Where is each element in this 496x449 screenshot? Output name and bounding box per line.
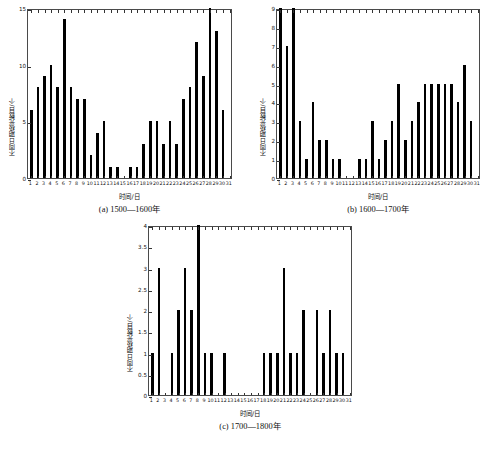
x-axis-tick-top (287, 10, 288, 13)
panel-a-axes (27, 9, 232, 179)
x-axis-tick (38, 176, 39, 179)
bar (269, 353, 272, 396)
y-axis-tick (149, 333, 152, 334)
x-axis-tick-top (212, 227, 213, 230)
y-axis-tick-label: 9 (261, 6, 275, 12)
panel-a: 不同日期极光数目/个 051015 1234567891011121314151… (0, 0, 248, 218)
x-axis-tick (471, 176, 472, 179)
x-axis-tick-top (307, 10, 308, 13)
y-axis-tick (28, 123, 31, 124)
y-axis-tick-label: 7 (261, 44, 275, 50)
bar (391, 121, 394, 178)
x-axis-tick-top (164, 10, 165, 13)
x-axis-tick-top (238, 227, 239, 230)
y-axis-tick (277, 104, 280, 105)
x-axis-tick-top (203, 10, 204, 13)
x-axis-tick (264, 393, 265, 396)
x-axis-tick (58, 176, 59, 179)
bar (371, 121, 374, 178)
x-axis-tick (317, 393, 318, 396)
x-axis-tick-top (280, 10, 281, 13)
x-axis-tick-top (337, 227, 338, 230)
x-axis-tick-top (317, 227, 318, 230)
y-axis-tick-label: 6 (261, 63, 275, 69)
panel-c-caption: (c) 1700—1800年 (148, 419, 352, 431)
y-axis-tick-label: 5 (14, 119, 26, 125)
x-axis-tick (244, 393, 245, 396)
x-axis-tick-top (277, 227, 278, 230)
x-axis-tick (231, 393, 232, 396)
bar (63, 19, 66, 178)
bar (322, 353, 325, 396)
x-axis-tick (198, 393, 199, 396)
x-axis-tick (277, 393, 278, 396)
x-axis-tick-top (320, 10, 321, 13)
y-axis-tick (277, 142, 280, 143)
x-axis-tick-top (185, 227, 186, 230)
x-axis-tick (386, 176, 387, 179)
bar (384, 140, 387, 178)
y-axis-tick-label: 1 (131, 351, 147, 357)
x-axis-tick-top (165, 227, 166, 230)
x-axis-tick (320, 176, 321, 179)
x-axis-tick (251, 393, 252, 396)
x-axis-tick-label: 31 (224, 181, 234, 186)
x-axis-tick-top (313, 10, 314, 13)
x-axis-tick-top (458, 10, 459, 13)
bar (195, 42, 198, 178)
x-axis-tick (323, 393, 324, 396)
x-axis-tick (185, 393, 186, 396)
x-axis-tick-top (97, 10, 98, 13)
x-axis-tick (91, 176, 92, 179)
y-axis-tick (277, 48, 280, 49)
panel-b-axes (276, 9, 480, 179)
bar (404, 140, 407, 178)
x-axis-tick (218, 393, 219, 396)
x-axis-tick (343, 393, 344, 396)
bar (190, 310, 193, 395)
x-axis-tick-top (438, 10, 439, 13)
x-axis-tick (379, 176, 380, 179)
x-axis-tick (425, 176, 426, 179)
x-axis-tick (179, 393, 180, 396)
bar (70, 87, 73, 178)
y-axis-tick (149, 355, 152, 356)
y-axis-tick-label: 0 (14, 176, 26, 182)
bar (444, 84, 447, 178)
bar (411, 121, 414, 178)
bar (171, 353, 174, 396)
x-axis-tick-top (465, 10, 466, 13)
x-axis-tick-top (346, 10, 347, 13)
x-axis-tick-top (244, 227, 245, 230)
y-axis-tick-label: 4 (131, 223, 147, 229)
bar (470, 121, 473, 178)
bar (463, 65, 466, 178)
x-axis-tick (177, 176, 178, 179)
x-axis-tick (445, 176, 446, 179)
x-axis-tick-top (152, 227, 153, 230)
bar (430, 84, 433, 178)
x-axis-tick-top (38, 10, 39, 13)
x-axis-tick (230, 176, 231, 179)
y-axis-tick (149, 312, 152, 313)
x-axis-tick (192, 393, 193, 396)
x-axis-tick-top (150, 10, 151, 13)
x-axis-tick (310, 393, 311, 396)
x-axis-tick-top (84, 10, 85, 13)
y-axis-tick-label: 2 (261, 138, 275, 144)
x-axis-tick-top (190, 10, 191, 13)
x-axis-tick (304, 393, 305, 396)
x-axis-tick-top (359, 10, 360, 13)
x-axis-tick (290, 393, 291, 396)
x-axis-tick-top (131, 10, 132, 13)
x-axis-tick-top (405, 10, 406, 13)
x-axis-tick (212, 393, 213, 396)
bar (312, 102, 315, 178)
x-axis-tick (164, 176, 165, 179)
x-axis-tick-top (379, 10, 380, 13)
x-axis-tick-top (225, 227, 226, 230)
y-axis-tick (28, 67, 31, 68)
bar (156, 121, 159, 178)
x-axis-tick (203, 176, 204, 179)
y-axis-tick-label: 1 (261, 157, 275, 163)
